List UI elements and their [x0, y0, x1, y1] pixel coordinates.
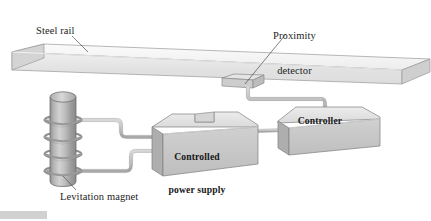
controller-label: Controller: [282, 116, 358, 127]
proximity-detector-label-line1: Proximity: [273, 30, 316, 42]
steel-rail: [12, 44, 430, 84]
controlled-power-supply-label: Controlled power supply: [155, 131, 239, 217]
controlled-power-supply-label-line2: power supply: [155, 185, 239, 196]
diagram-canvas: Steel rail Proximity detector Levitation…: [0, 0, 431, 221]
controlled-power-supply-label-line1: Controlled: [155, 152, 239, 163]
scan-edge-artifact: [0, 211, 47, 219]
proximity-detector-label-line2: detector: [273, 65, 316, 77]
proximity-detector: [222, 74, 264, 88]
levitation-magnet: [45, 92, 82, 187]
steel-rail-label: Steel rail: [36, 25, 75, 37]
proximity-detector-label: Proximity detector: [273, 6, 316, 100]
levitation-magnet-label: Levitation magnet: [60, 191, 138, 203]
